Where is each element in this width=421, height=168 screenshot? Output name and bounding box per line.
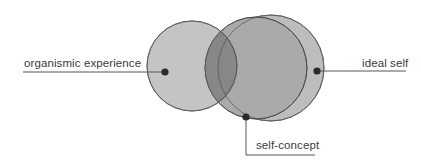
organismic-experience-label: organismic experience	[24, 58, 141, 70]
ideal-self-label: ideal self	[362, 58, 408, 70]
organismic-experience-dot	[161, 68, 168, 75]
self-concept-label: self-concept	[256, 140, 319, 152]
venn-diagram	[0, 0, 421, 168]
self-concept-dot	[242, 113, 249, 120]
ideal-self-dot	[313, 67, 320, 74]
